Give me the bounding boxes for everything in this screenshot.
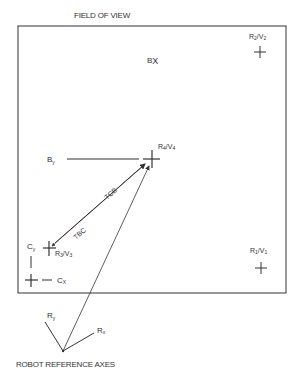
robot-reference-axes: Ry Rx: [45, 311, 106, 352]
point-c-origin: [25, 274, 38, 287]
point-r4v4: R4/V4: [143, 143, 175, 168]
tbc-label: TBC: [72, 226, 87, 240]
tcb-label: TCB: [103, 186, 118, 201]
label-cx: CX: [57, 276, 67, 285]
point-r1v1-label: R1/V1: [250, 247, 267, 255]
label-cy: Cy: [27, 242, 36, 252]
field-of-view-title: FIELD OF VIEW: [74, 11, 131, 20]
point-r2v2: R2/V2: [249, 33, 266, 58]
point-r3v3-label: R3/V3: [55, 250, 72, 258]
label-by: By: [47, 155, 55, 165]
point-r1v1: R1/V1: [250, 247, 267, 274]
label-rx: Rx: [97, 326, 106, 335]
ry-axis-line: [45, 322, 63, 351]
label-ry: Ry: [47, 311, 56, 321]
tbc-vector: [52, 167, 142, 246]
point-r4v4-label: R4/V4: [158, 143, 175, 151]
robot-origin-dot: [62, 350, 64, 352]
point-r3v3: R3/V3: [43, 241, 72, 258]
robot-reference-axes-caption: ROBOT REFERENCE AXES: [16, 360, 115, 369]
diagram-canvas: FIELD OF VIEW R2/V2 BX By R4/V4 TCB TBC …: [0, 0, 301, 379]
label-bx: BX: [147, 56, 158, 66]
rx-axis-line: [63, 333, 94, 351]
point-r2v2-label: R2/V2: [249, 33, 266, 41]
